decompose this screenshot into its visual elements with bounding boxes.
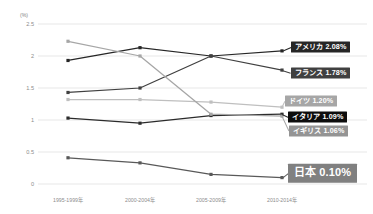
series-line [68, 158, 282, 178]
data-point-marker [209, 173, 212, 176]
line-chart: (%) 2.521.510.50 1995-1999年2000-2004年200… [0, 0, 373, 214]
series-end-label: イタリア 1.09% [288, 111, 347, 122]
data-point-marker [66, 98, 69, 101]
data-point-marker [209, 54, 212, 57]
data-point-marker [209, 113, 212, 116]
data-point-marker [66, 156, 69, 159]
data-point-marker [66, 40, 69, 43]
series-end-label: イギリス 1.06% [289, 125, 348, 136]
series-end-label: ドイツ 1.20% [285, 95, 337, 106]
data-point-marker [138, 98, 141, 101]
data-point-marker [138, 54, 141, 57]
series-line [68, 100, 282, 108]
data-point-marker [209, 100, 212, 103]
series-line [68, 56, 282, 92]
data-point-marker [66, 59, 69, 62]
data-point-marker [66, 91, 69, 94]
data-point-marker [138, 46, 141, 49]
series-end-label: アメリカ 2.08% [291, 41, 350, 52]
data-point-marker [138, 86, 141, 89]
series-line [68, 48, 282, 61]
data-point-marker [138, 161, 141, 164]
data-point-marker [138, 122, 141, 125]
series-end-label: 日本 0.10% [288, 164, 357, 183]
series-end-label: フランス 1.78% [291, 67, 350, 78]
data-point-marker [66, 116, 69, 119]
